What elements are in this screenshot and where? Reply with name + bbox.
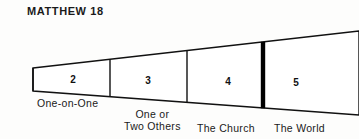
segment-number-4: 4 — [216, 76, 240, 87]
segment-label-line1: The World — [274, 122, 325, 134]
segment-label-line1: One-on-One — [37, 97, 98, 109]
segment-label-line2: Two Others — [124, 120, 181, 132]
diagram-canvas: MATTHEW 18 2 3 4 5 One-on-One One or Two… — [0, 0, 359, 139]
segment-number-3: 3 — [136, 75, 160, 86]
segment-label-one-or-two-others: One or Two Others — [124, 108, 181, 132]
segment-label-the-church: The Church — [197, 122, 255, 134]
segment-label-the-world: The World — [274, 122, 325, 134]
segment-number-2: 2 — [61, 74, 85, 85]
segment-label-line1: One or — [124, 108, 181, 120]
segment-label-one-on-one: One-on-One — [37, 97, 98, 109]
segment-number-5: 5 — [284, 77, 308, 88]
segment-label-line1: The Church — [197, 122, 255, 134]
